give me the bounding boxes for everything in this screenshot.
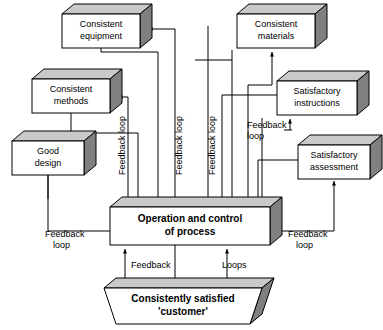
- box-satisfactory-assessment[interactable]: Satisfactory assessment: [298, 135, 382, 179]
- box-label-line2: assessment: [310, 162, 359, 172]
- label-feedback-loop-vertical-2: Feedback loop: [174, 116, 184, 175]
- box-label-line1: Operation and control: [138, 213, 243, 224]
- box-consistent-methods[interactable]: Consistent methods: [32, 69, 122, 113]
- box-label-line2: instructions: [294, 98, 340, 108]
- label-feedback-loop-right-upper-line2: loop: [247, 131, 264, 141]
- box-label-line1: Consistent: [50, 84, 93, 94]
- box-label-line1: Satisfactory: [310, 150, 358, 160]
- box-label-line2: materials: [258, 31, 295, 41]
- label-feedback-loop-right-upper-line1: Feedback: [247, 120, 287, 130]
- box-label-line1: Consistently satisfied: [131, 293, 234, 304]
- label-feedback-loop-vertical-3: Feedback loop: [207, 116, 217, 175]
- box-consistently-satisfied-customer[interactable]: Consistently satisfied 'customer': [104, 278, 274, 324]
- box-label-line2: equipment: [80, 31, 123, 41]
- box-label-line2: of process: [165, 226, 216, 237]
- box-consistent-materials[interactable]: Consistent materials: [237, 4, 327, 48]
- label-feedback-loop-left-lower-line1: Feedback: [45, 229, 85, 239]
- box-satisfactory-instructions[interactable]: Satisfactory instructions: [277, 71, 369, 115]
- label-feedback-bottom: Feedback: [131, 260, 171, 270]
- diagram-svg: Consistent equipment Consistent material…: [0, 0, 383, 330]
- box-label-line2: design: [35, 158, 62, 168]
- box-label-line1: Good: [37, 146, 59, 156]
- box-label-line1: Satisfactory: [293, 86, 341, 96]
- box-good-design[interactable]: Good design: [12, 131, 96, 175]
- label-feedback-loop-right-lower-line2: loop: [296, 240, 313, 250]
- box-label-line2: 'customer': [158, 306, 208, 317]
- label-feedback-loop-right-lower-line1: Feedback: [288, 229, 328, 239]
- box-label-line1: Consistent: [255, 19, 298, 29]
- label-loops-bottom: Loops: [222, 260, 247, 270]
- box-operation-control[interactable]: Operation and control of process: [110, 197, 282, 245]
- box-label-line2: methods: [54, 96, 89, 106]
- label-feedback-loop-left-lower-line2: loop: [53, 240, 70, 250]
- label-feedback-loop-vertical-1: Feedback loop: [117, 116, 127, 175]
- diagram-canvas: Consistent equipment Consistent material…: [0, 0, 383, 330]
- box-label-line1: Consistent: [80, 19, 123, 29]
- box-consistent-equipment[interactable]: Consistent equipment: [62, 4, 152, 48]
